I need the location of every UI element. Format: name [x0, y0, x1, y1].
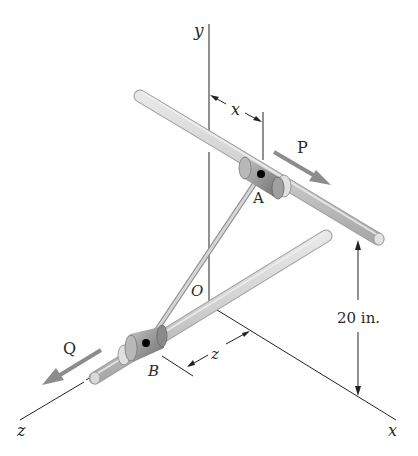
- dim-height-label: 20 in.: [337, 309, 380, 327]
- force-q-label: Q: [63, 339, 76, 358]
- pin-b: [142, 339, 150, 347]
- dimension-z: [162, 331, 250, 376]
- x-axis-label: x: [388, 421, 397, 440]
- dim-x-label: x: [231, 100, 240, 119]
- z-axis-label: z: [16, 421, 26, 440]
- pin-a: [257, 170, 265, 178]
- collar-b-label: B: [147, 362, 159, 380]
- y-axis-label: y: [193, 20, 204, 40]
- z-axis-ext: [20, 382, 84, 420]
- origin-label: O: [191, 282, 203, 300]
- collar-b: [118, 325, 167, 365]
- dim-z-label: z: [210, 345, 219, 363]
- force-p-label: P: [297, 138, 308, 157]
- mechanism-diagram: y x P A O 20 in. Q z B z x: [0, 0, 418, 456]
- collar-a-label: A: [252, 189, 264, 207]
